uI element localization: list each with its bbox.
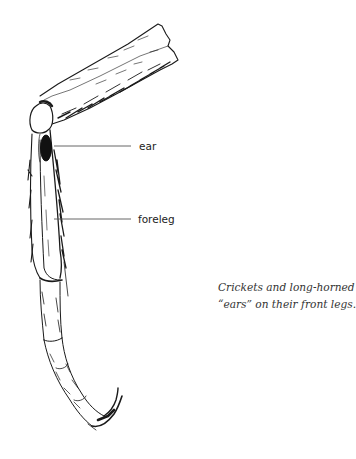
femur-segment: [40, 24, 178, 124]
ear-tympanum: [41, 135, 52, 161]
knee-joint: [30, 101, 53, 133]
tarsus-segments: [40, 280, 104, 426]
caption-line-2: “ears” on their front legs.: [218, 296, 356, 313]
caption-line-1: Crickets and long-horned grasshoppers sp…: [218, 279, 356, 296]
claw: [88, 388, 122, 430]
leg-illustration: [0, 0, 356, 459]
foreleg-label: foreleg: [138, 214, 175, 225]
ear-label: ear: [139, 141, 156, 152]
figure-caption: Crickets and long-horned grasshoppers sp…: [218, 279, 356, 313]
